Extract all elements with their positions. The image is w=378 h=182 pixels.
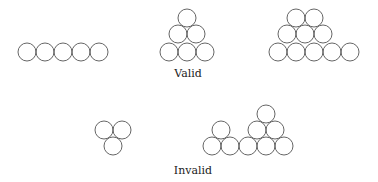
circle xyxy=(287,9,305,27)
circle xyxy=(257,105,275,123)
circle xyxy=(95,121,113,139)
circle-arrangements xyxy=(0,0,378,182)
circle xyxy=(305,43,323,61)
valid-triangle-6 xyxy=(160,9,214,61)
invalid-inverted-3 xyxy=(95,121,131,155)
circle xyxy=(203,137,221,155)
valid-trapezoid-10 xyxy=(269,9,359,61)
circle xyxy=(196,43,214,61)
diagram-canvas: Valid Invalid xyxy=(0,0,378,182)
circle xyxy=(178,43,196,61)
circle xyxy=(54,43,72,61)
circle xyxy=(275,137,293,155)
circle xyxy=(278,25,296,43)
circle xyxy=(36,43,54,61)
circle xyxy=(341,43,359,61)
circle xyxy=(169,25,187,43)
circle xyxy=(104,137,122,155)
circle xyxy=(305,9,323,27)
circle xyxy=(287,43,305,61)
invalid-label: Invalid xyxy=(174,164,212,177)
circle xyxy=(113,121,131,139)
circle xyxy=(187,25,205,43)
circle xyxy=(72,43,90,61)
circle xyxy=(266,121,284,139)
circle xyxy=(239,137,257,155)
invalid-split-base-9 xyxy=(203,105,293,155)
circle xyxy=(314,25,332,43)
circle xyxy=(212,121,230,139)
circle xyxy=(269,43,287,61)
circle xyxy=(221,137,239,155)
circle xyxy=(178,9,196,27)
circle xyxy=(18,43,36,61)
circle xyxy=(323,43,341,61)
valid-label: Valid xyxy=(174,67,202,80)
circle xyxy=(90,43,108,61)
circle xyxy=(160,43,178,61)
circle xyxy=(296,25,314,43)
circle xyxy=(248,121,266,139)
circle xyxy=(257,137,275,155)
valid-row-of-5 xyxy=(18,43,108,61)
